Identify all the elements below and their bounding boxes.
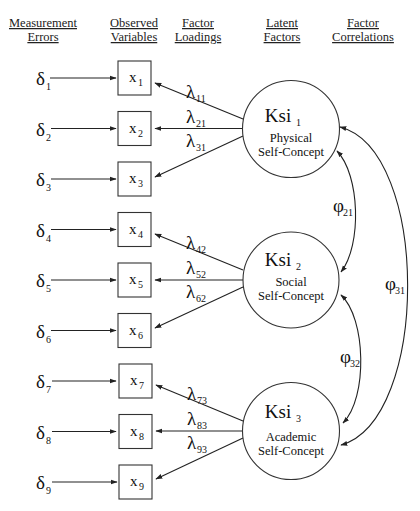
svg-text:Self-Concept: Self-Concept bbox=[258, 444, 324, 458]
error-9: δ9 bbox=[36, 472, 117, 496]
observed-x9: x9 bbox=[119, 465, 152, 499]
error-5: δ5 bbox=[36, 270, 116, 294]
svg-text:x: x bbox=[130, 473, 138, 489]
svg-text:Physical: Physical bbox=[270, 131, 313, 145]
svg-text:31: 31 bbox=[196, 142, 206, 153]
latent-factors: Ksi1 Physical Self-Concept Ksi2 Social S… bbox=[243, 81, 340, 480]
error-8: δ8 bbox=[36, 422, 116, 446]
svg-text:δ: δ bbox=[36, 220, 45, 241]
error-1: δ1 bbox=[36, 68, 116, 92]
svg-text:52: 52 bbox=[196, 269, 206, 280]
svg-text:x: x bbox=[129, 170, 137, 186]
svg-text:λ: λ bbox=[186, 81, 196, 102]
svg-text:1: 1 bbox=[296, 117, 301, 128]
svg-text:λ: λ bbox=[187, 408, 197, 429]
factor-correlations: φ21 φ32 φ31 bbox=[333, 127, 408, 445]
factor-ksi-2: Ksi2 Social Self-Concept bbox=[243, 232, 339, 328]
svg-text:8: 8 bbox=[139, 431, 144, 442]
header-factor-loadings-2: Loadings bbox=[175, 30, 222, 44]
svg-text:λ: λ bbox=[187, 383, 197, 404]
svg-text:Ksi: Ksi bbox=[265, 249, 291, 270]
svg-text:2: 2 bbox=[46, 132, 51, 143]
observed-x7: x7 bbox=[119, 364, 152, 398]
factor-ksi-3: Ksi3 Academic Self-Concept bbox=[243, 383, 340, 480]
svg-text:x: x bbox=[130, 423, 138, 439]
svg-text:7: 7 bbox=[46, 384, 51, 395]
svg-text:λ: λ bbox=[187, 432, 197, 453]
svg-text:6: 6 bbox=[138, 330, 143, 341]
svg-text:δ: δ bbox=[36, 119, 45, 140]
svg-text:42: 42 bbox=[196, 244, 206, 255]
svg-text:Self-Concept: Self-Concept bbox=[258, 289, 324, 303]
loading-label-52: λ52 bbox=[186, 257, 206, 280]
observed-x4: x4 bbox=[118, 213, 151, 247]
svg-text:93: 93 bbox=[197, 444, 207, 455]
svg-text:Ksi: Ksi bbox=[265, 105, 291, 126]
svg-text:λ: λ bbox=[186, 281, 196, 302]
svg-text:2: 2 bbox=[138, 128, 143, 139]
observed-x5: x5 bbox=[118, 263, 151, 297]
correlation-label-21: φ21 bbox=[333, 195, 353, 218]
svg-text:2: 2 bbox=[296, 261, 301, 272]
svg-text:λ: λ bbox=[186, 106, 196, 127]
svg-text:3: 3 bbox=[46, 182, 51, 193]
svg-text:11: 11 bbox=[196, 93, 206, 104]
header-measurement-errors-1: Measurement bbox=[9, 16, 78, 30]
loading-label-42: λ42 bbox=[186, 232, 206, 255]
svg-text:δ: δ bbox=[36, 422, 45, 443]
loading-label-62: λ62 bbox=[186, 281, 206, 304]
svg-text:21: 21 bbox=[343, 207, 353, 218]
observed-x8: x8 bbox=[119, 415, 152, 449]
loading-label-93: λ93 bbox=[187, 432, 207, 455]
svg-text:62: 62 bbox=[196, 293, 206, 304]
svg-text:3: 3 bbox=[138, 178, 143, 189]
svg-text:9: 9 bbox=[46, 485, 51, 496]
svg-text:λ: λ bbox=[186, 130, 196, 151]
svg-text:3: 3 bbox=[296, 413, 301, 424]
svg-text:x: x bbox=[129, 271, 137, 287]
svg-text:x: x bbox=[129, 120, 137, 136]
svg-text:5: 5 bbox=[138, 279, 143, 290]
svg-text:δ: δ bbox=[36, 321, 45, 342]
svg-text:Self-Concept: Self-Concept bbox=[258, 145, 324, 159]
observed-x6: x6 bbox=[118, 314, 151, 348]
svg-text:4: 4 bbox=[138, 229, 143, 240]
svg-text:δ: δ bbox=[36, 68, 45, 89]
svg-text:21: 21 bbox=[196, 118, 206, 129]
svg-text:x: x bbox=[129, 69, 137, 85]
header-factor-loadings-1: Factor bbox=[182, 16, 215, 30]
factor-loadings: λ11 λ21 λ31 λ42 λ52 λ62 λ73 λ83 λ93 bbox=[155, 81, 243, 479]
svg-text:δ: δ bbox=[36, 472, 45, 493]
error-7: δ7 bbox=[36, 371, 116, 395]
svg-text:x: x bbox=[130, 372, 138, 388]
observed-x2: x2 bbox=[118, 112, 151, 146]
svg-text:73: 73 bbox=[197, 395, 207, 406]
svg-text:31: 31 bbox=[395, 285, 405, 296]
header-factor-correlations-2: Correlations bbox=[332, 30, 394, 44]
header-observed-variables-1: Observed bbox=[110, 16, 159, 30]
svg-text:1: 1 bbox=[46, 81, 51, 92]
svg-text:5: 5 bbox=[46, 283, 51, 294]
factor-ksi-1: Ksi1 Physical Self-Concept bbox=[243, 81, 340, 178]
header-latent-factors-1: Latent bbox=[266, 16, 298, 30]
svg-text:x: x bbox=[129, 322, 137, 338]
svg-text:λ: λ bbox=[186, 232, 196, 253]
header-observed-variables-2: Variables bbox=[111, 30, 158, 44]
loading-label-31: λ31 bbox=[186, 130, 206, 153]
header-latent-factors-2: Factors bbox=[264, 30, 301, 44]
svg-text:6: 6 bbox=[46, 334, 51, 345]
error-6: δ6 bbox=[36, 321, 116, 345]
header-factor-correlations-1: Factor bbox=[347, 16, 380, 30]
svg-text:1: 1 bbox=[138, 77, 143, 88]
observed-x3: x3 bbox=[118, 162, 151, 196]
error-3: δ3 bbox=[36, 169, 116, 193]
correlation-label-31: φ31 bbox=[385, 273, 405, 296]
svg-text:δ: δ bbox=[36, 371, 45, 392]
correlation-label-32: φ32 bbox=[340, 346, 360, 369]
column-headers: Measurement Errors Observed Variables Fa… bbox=[9, 16, 394, 44]
header-measurement-errors-2: Errors bbox=[27, 30, 58, 44]
loading-label-83: λ83 bbox=[187, 408, 207, 431]
observed-variables: x1 x2 x3 x4 x5 x6 x7 x8 x9 bbox=[118, 61, 152, 499]
svg-text:8: 8 bbox=[46, 435, 51, 446]
svg-text:Social: Social bbox=[275, 275, 307, 289]
